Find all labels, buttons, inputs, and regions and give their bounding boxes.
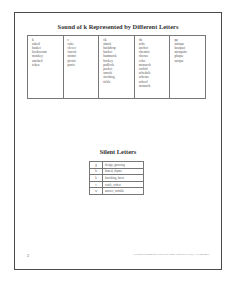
silent-letters-title: Silent Letters: [15, 148, 221, 155]
word: tickle: [103, 80, 131, 84]
table-row: kknocking, knew: [90, 175, 144, 182]
table-row: tcastle, soften: [90, 181, 144, 188]
table-row: gdesign, gnawing: [90, 162, 144, 169]
word: panic: [68, 63, 96, 67]
table-row: wanswer, wrinkle: [90, 188, 144, 195]
k-sound-title: Sound of k Represented by Different Lett…: [15, 23, 221, 30]
k-sound-table: k asked basket bookworm monkey smoked to…: [27, 35, 206, 99]
column-qu: qu antique bouquet mosquito plaque uniqu…: [170, 36, 206, 99]
column-k: k asked basket bookworm monkey smoked to…: [28, 36, 64, 99]
column-ck: ck attack backdrop bucket hammock hockey…: [99, 36, 135, 99]
silent-letter: h: [90, 168, 103, 175]
example-words: castle, soften: [103, 181, 144, 188]
silent-letter: g: [90, 162, 103, 169]
page-number: 2: [27, 253, 29, 258]
column-ch: ch ache anchor chemist chorus echo monar…: [134, 36, 170, 99]
silent-letter: k: [90, 175, 103, 182]
word: stomach: [139, 84, 167, 88]
table-row: hhonest, rhyme: [90, 168, 144, 175]
example-words: design, gnawing: [103, 162, 144, 169]
example-words: honest, rhyme: [103, 168, 144, 175]
example-words: knocking, knew: [103, 175, 144, 182]
document-page: Sound of k Represented by Different Lett…: [14, 12, 222, 270]
word: unique: [174, 59, 202, 63]
silent-letter: w: [90, 188, 103, 195]
word: token: [32, 63, 60, 67]
page-footer: Section 2.2 Sound of k Spelled as Many D…: [134, 253, 209, 256]
silent-letter: t: [90, 181, 103, 188]
silent-letters-table: gdesign, gnawing hhonest, rhyme kknockin…: [89, 161, 144, 195]
example-words: answer, wrinkle: [103, 188, 144, 195]
column-c: c cake clever fascist mimic picnic panic: [63, 36, 99, 99]
